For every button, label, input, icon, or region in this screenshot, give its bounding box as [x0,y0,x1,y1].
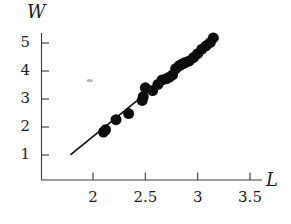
scatter-plot-figure: ) W L 12345 22.533.5 [0,0,291,224]
stray-mark-artifact [87,79,93,82]
data-point-group [98,32,219,137]
data-point [100,124,111,135]
plot-canvas [0,0,291,224]
data-point [123,108,134,119]
x-axis-ticks [93,173,250,181]
data-point [111,114,122,125]
y-axis-ticks [42,43,50,155]
data-point [208,32,219,43]
